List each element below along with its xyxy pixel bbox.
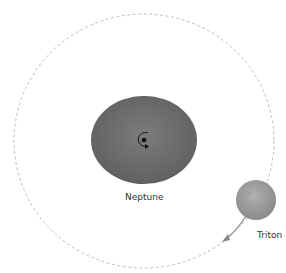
triton-moon xyxy=(236,180,276,220)
neptune-label: Neptune xyxy=(125,192,163,202)
triton-label: Triton xyxy=(257,230,282,240)
orbit-direction-arrow-icon xyxy=(222,216,246,242)
orbit-diagram xyxy=(0,0,286,273)
rotation-axis-dot xyxy=(142,138,147,143)
